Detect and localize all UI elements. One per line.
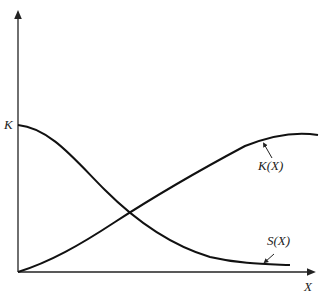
sx-pointer bbox=[265, 254, 274, 262]
k-label: K bbox=[4, 117, 13, 133]
x-axis-label: X bbox=[304, 279, 312, 295]
s-curve bbox=[18, 125, 290, 265]
diagram-canvas bbox=[0, 0, 329, 300]
sx-label: S(X) bbox=[267, 233, 290, 249]
kx-pointer bbox=[264, 144, 272, 158]
kx-label: K(X) bbox=[258, 158, 283, 174]
k-curve bbox=[18, 134, 318, 272]
